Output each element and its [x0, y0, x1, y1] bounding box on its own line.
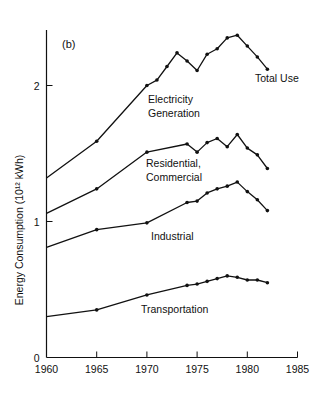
data-point [185, 284, 189, 288]
x-tick-label: 1970 [135, 363, 159, 375]
data-point [95, 187, 99, 191]
data-point [225, 274, 229, 278]
data-point [145, 84, 149, 88]
data-point [95, 228, 99, 232]
series-label: Commercial [146, 171, 202, 183]
data-point [256, 278, 260, 282]
data-point [205, 280, 209, 284]
data-point [165, 65, 169, 69]
data-point [225, 145, 229, 149]
data-point [95, 139, 99, 143]
data-point [225, 36, 229, 40]
data-point [215, 277, 219, 281]
data-point [266, 209, 270, 213]
data-point [185, 59, 189, 63]
y-tick-label: 2 [34, 80, 40, 92]
data-point [256, 153, 260, 157]
data-point [205, 52, 209, 56]
data-point [145, 221, 149, 225]
data-point [215, 187, 219, 191]
x-tick-label: 1960 [35, 363, 59, 375]
data-point [256, 55, 260, 59]
series-label: Industrial [151, 230, 194, 242]
series-label: Residential, [146, 157, 201, 169]
x-tick-label: 1965 [85, 363, 109, 375]
x-tick-label: 1980 [236, 363, 260, 375]
data-point [195, 69, 199, 73]
data-point [195, 199, 199, 203]
data-point [185, 142, 189, 146]
series-labels: Total UseResidential,CommercialIndustria… [141, 72, 299, 315]
data-point [215, 47, 219, 51]
data-point [95, 308, 99, 312]
data-point [246, 146, 250, 150]
series-label: Transportation [141, 303, 208, 315]
data-point [235, 275, 239, 279]
data-point [266, 281, 270, 285]
data-point [246, 44, 250, 48]
data-point [246, 278, 250, 282]
x-tick-label: 1975 [185, 363, 209, 375]
x-tick-label: 1985 [286, 363, 310, 375]
data-point [266, 67, 270, 71]
data-point [235, 133, 239, 137]
data-point [205, 191, 209, 195]
annotation-electricity-generation: Generation [148, 107, 200, 119]
data-point [175, 51, 179, 55]
y-axis-label: Energy Consumption (10¹² kWh) [13, 155, 25, 306]
data-point [145, 293, 149, 297]
data-point [145, 150, 149, 154]
y-tick-label: 1 [34, 216, 40, 228]
energy-consumption-chart: 196019651970197519801985012 Total UseRes… [0, 0, 325, 402]
y-tick-label: 0 [34, 352, 40, 364]
data-point [155, 78, 159, 82]
annotation-electricity-generation: Electricity [148, 93, 194, 105]
data-point [266, 167, 270, 171]
data-point [246, 190, 250, 194]
data-point [185, 201, 189, 205]
data-point [205, 141, 209, 145]
data-point [235, 33, 239, 37]
data-point [235, 180, 239, 184]
data-point [225, 184, 229, 188]
data-point [195, 150, 199, 154]
series-label: Total Use [255, 72, 299, 84]
panel-label: (b) [62, 38, 75, 50]
data-point [195, 282, 199, 286]
data-point [215, 137, 219, 141]
data-point [256, 198, 260, 202]
